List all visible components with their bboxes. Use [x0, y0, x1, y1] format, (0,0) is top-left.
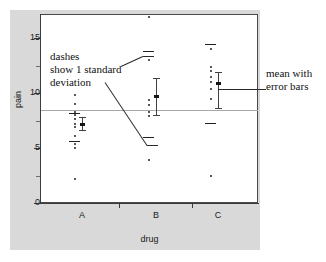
leader-line-mean — [218, 89, 266, 90]
mean-marker-C — [216, 82, 221, 85]
data-point-B — [148, 111, 150, 113]
y-tick-minor — [36, 66, 40, 67]
data-point-C — [210, 81, 212, 83]
data-point-A — [74, 143, 76, 145]
data-point-C — [210, 88, 212, 90]
data-point-C — [210, 66, 212, 68]
data-point-A — [74, 114, 76, 116]
error-cap-B — [153, 115, 160, 116]
sd-dash-A — [69, 141, 80, 142]
annotation-dashes-line2: show 1 standard — [50, 63, 122, 76]
y-tick-minor — [36, 176, 40, 177]
annotation-mean-line2: error bars — [266, 80, 312, 93]
data-point-C — [210, 48, 212, 50]
x-axis-line — [40, 203, 259, 204]
error-cap-A — [79, 130, 86, 131]
figure-root: 051015 ABC pain drug dashes show 1 stand… — [0, 0, 326, 262]
y-tick-label-15: 15 — [22, 33, 40, 42]
annotation-mean-line1: mean with — [266, 67, 312, 80]
y-tick-minor — [36, 121, 40, 122]
sd-dash-C — [205, 44, 216, 45]
data-point-C — [210, 175, 212, 177]
x-tick-label-C: C — [203, 210, 233, 220]
x-axis-title: drug — [40, 234, 259, 244]
data-point-A — [74, 147, 76, 149]
sd-dash-B — [143, 51, 154, 52]
y-tick-label-10: 10 — [22, 88, 40, 97]
data-point-C — [210, 98, 212, 100]
data-point-A — [74, 135, 76, 137]
y-tick-label-0: 0 — [22, 198, 40, 207]
y-tick-label-wrap: 0 — [10, 198, 40, 207]
data-point-B — [148, 99, 150, 101]
y-tick-label-5: 5 — [22, 143, 40, 152]
data-point-B — [148, 59, 150, 61]
data-point-A — [74, 123, 76, 125]
sd-dash-A — [69, 113, 80, 114]
data-point-A — [74, 103, 76, 105]
error-cap-B — [153, 78, 160, 79]
y-axis-title: pain — [13, 91, 23, 108]
annotation-dashes-line1: dashes — [50, 50, 122, 63]
data-point-A — [74, 178, 76, 180]
x-tick-label-B: B — [141, 210, 171, 220]
data-point-C — [210, 70, 212, 72]
leader-line-sd-upper-flat — [143, 56, 154, 57]
y-tick-label-wrap: 5 — [10, 143, 40, 152]
y-tick-label-wrap: 15 — [10, 33, 40, 42]
error-bar-C — [218, 72, 219, 108]
sd-dash-B — [143, 137, 154, 138]
error-cap-A — [79, 117, 86, 118]
error-cap-C — [215, 108, 222, 109]
data-point-C — [210, 76, 212, 78]
annotation-mean-note: mean with error bars — [266, 67, 312, 93]
plot-panel — [40, 14, 258, 203]
annotation-dashes-note: dashes show 1 standard deviation — [50, 50, 122, 89]
mean-marker-A — [80, 123, 85, 126]
mean-marker-B — [154, 95, 159, 98]
x-tick — [119, 203, 120, 208]
leader-line-sd-lower-flat — [147, 145, 158, 146]
x-tick — [192, 203, 193, 208]
sd-dash-C — [205, 123, 216, 124]
x-tick-label-A: A — [67, 210, 97, 220]
annotation-dashes-line3: deviation — [50, 76, 122, 89]
error-cap-C — [215, 72, 222, 73]
